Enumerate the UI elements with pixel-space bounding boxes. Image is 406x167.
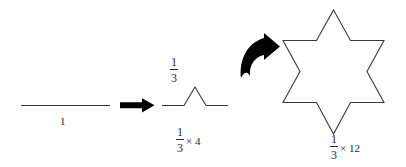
stage-2-generator [162, 87, 228, 106]
label-one-third-height: 1 3 [170, 56, 178, 84]
fraction-one-third: 1 3 [176, 126, 184, 154]
straight-arrow-shape [120, 98, 155, 112]
fraction-bar [170, 69, 178, 70]
curved-arrow-shape [241, 33, 280, 78]
fraction-one-third: 1 3 [170, 56, 178, 84]
label-unit-text: 1 [60, 115, 66, 127]
fraction-bar [176, 139, 184, 140]
curved-arrow [241, 33, 280, 78]
label-one-third-times-twelve: 1 3 × 12 [330, 133, 360, 161]
stage-3-star [283, 10, 384, 134]
fraction-one-third: 1 3 [330, 133, 338, 161]
multiplier-text: × 4 [186, 136, 200, 147]
fraction-numerator: 1 [176, 126, 184, 139]
fraction-numerator: 1 [170, 56, 178, 69]
fraction-denominator: 3 [330, 148, 338, 161]
label-unit-length: 1 [60, 112, 66, 128]
multiplier-text: × 12 [340, 143, 360, 154]
fraction-numerator: 1 [330, 133, 338, 146]
fraction-denominator: 3 [176, 141, 184, 154]
star-outline [283, 10, 384, 134]
generator-polyline [162, 87, 228, 106]
fraction-denominator: 3 [170, 71, 178, 84]
label-one-third-times-four: 1 3 × 4 [176, 126, 200, 154]
fraction-bar [330, 146, 338, 147]
straight-arrow [120, 98, 155, 112]
